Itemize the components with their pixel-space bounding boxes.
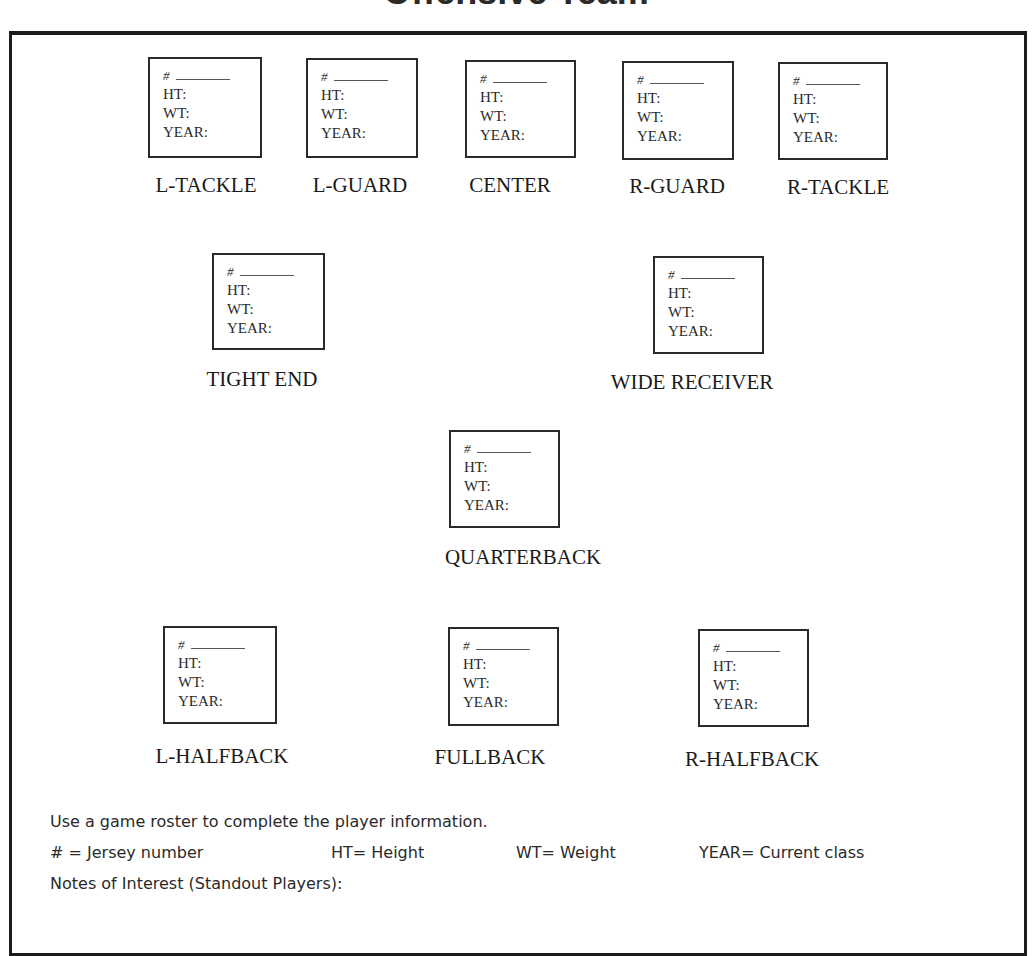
jersey-number-field[interactable]: # <box>637 71 732 89</box>
weight-field[interactable]: WT: <box>793 109 886 128</box>
position-label-wide-receiver: WIDE RECEIVER <box>611 370 774 394</box>
jersey-number-field[interactable]: # <box>713 639 807 657</box>
jersey-number-blank-line[interactable] <box>681 277 735 279</box>
jersey-number-label: # <box>637 72 644 87</box>
legend-item: WT= Weight <box>516 843 616 863</box>
jersey-number-field[interactable]: # <box>793 72 886 90</box>
jersey-number-field[interactable]: # <box>227 263 323 281</box>
player-card-l-halfback[interactable]: #HT:WT:YEAR: <box>163 626 277 724</box>
position-label-l-guard: L-GUARD <box>313 173 408 197</box>
jersey-number-field[interactable]: # <box>480 70 574 88</box>
weight-field[interactable]: WT: <box>480 107 574 126</box>
year-field[interactable]: YEAR: <box>713 695 807 714</box>
height-field[interactable]: HT: <box>463 655 557 674</box>
weight-field[interactable]: WT: <box>668 303 762 322</box>
jersey-number-label: # <box>713 640 720 655</box>
jersey-number-blank-line[interactable] <box>476 648 530 650</box>
jersey-number-label: # <box>163 68 170 83</box>
year-field[interactable]: YEAR: <box>480 126 574 145</box>
legend-item: # = Jersey number <box>50 843 203 863</box>
legend-item: YEAR= Current class <box>699 843 864 863</box>
position-label-quarterback: QUARTERBACK <box>445 545 601 569</box>
jersey-number-blank-line[interactable] <box>650 82 704 84</box>
page-title: Offensive Team <box>0 0 1032 10</box>
jersey-number-label: # <box>480 71 487 86</box>
position-label-r-halfback: R-HALFBACK <box>685 747 819 771</box>
player-card-r-tackle[interactable]: #HT:WT:YEAR: <box>778 62 888 160</box>
jersey-number-blank-line[interactable] <box>477 451 531 453</box>
jersey-number-field[interactable]: # <box>178 636 275 654</box>
position-label-l-tackle: L-TACKLE <box>156 173 257 197</box>
year-field[interactable]: YEAR: <box>668 322 762 341</box>
jersey-number-blank-line[interactable] <box>726 650 780 652</box>
height-field[interactable]: HT: <box>321 86 416 105</box>
weight-field[interactable]: WT: <box>713 676 807 695</box>
player-card-r-guard[interactable]: #HT:WT:YEAR: <box>622 61 734 160</box>
jersey-number-blank-line[interactable] <box>334 79 388 81</box>
weight-field[interactable]: WT: <box>163 104 260 123</box>
jersey-number-blank-line[interactable] <box>240 274 294 276</box>
jersey-number-field[interactable]: # <box>463 637 557 655</box>
weight-field[interactable]: WT: <box>464 477 558 496</box>
weight-field[interactable]: WT: <box>321 105 416 124</box>
weight-field[interactable]: WT: <box>227 300 323 319</box>
legend-item: HT= Height <box>331 843 424 863</box>
jersey-number-label: # <box>178 637 185 652</box>
jersey-number-field[interactable]: # <box>321 68 416 86</box>
height-field[interactable]: HT: <box>713 657 807 676</box>
jersey-number-label: # <box>321 69 328 84</box>
jersey-number-label: # <box>463 638 470 653</box>
player-card-wide-receiver[interactable]: #HT:WT:YEAR: <box>653 256 764 354</box>
jersey-number-blank-line[interactable] <box>493 81 547 83</box>
height-field[interactable]: HT: <box>668 284 762 303</box>
jersey-number-label: # <box>668 267 675 282</box>
jersey-number-field[interactable]: # <box>464 440 558 458</box>
height-field[interactable]: HT: <box>793 90 886 109</box>
player-card-fullback[interactable]: #HT:WT:YEAR: <box>448 627 559 726</box>
height-field[interactable]: HT: <box>464 458 558 477</box>
height-field[interactable]: HT: <box>637 89 732 108</box>
player-card-quarterback[interactable]: #HT:WT:YEAR: <box>449 430 560 528</box>
year-field[interactable]: YEAR: <box>227 319 323 338</box>
weight-field[interactable]: WT: <box>463 674 557 693</box>
jersey-number-field[interactable]: # <box>163 67 260 85</box>
jersey-number-label: # <box>464 441 471 456</box>
height-field[interactable]: HT: <box>178 654 275 673</box>
height-field[interactable]: HT: <box>480 88 574 107</box>
year-field[interactable]: YEAR: <box>178 692 275 711</box>
player-card-l-tackle[interactable]: #HT:WT:YEAR: <box>148 57 262 158</box>
position-label-center: CENTER <box>469 173 551 197</box>
year-field[interactable]: YEAR: <box>463 693 557 712</box>
weight-field[interactable]: WT: <box>178 673 275 692</box>
notes-label: Notes of Interest (Standout Players): <box>50 874 342 894</box>
player-card-l-guard[interactable]: #HT:WT:YEAR: <box>306 58 418 158</box>
instructions-text: Use a game roster to complete the player… <box>50 812 488 832</box>
weight-field[interactable]: WT: <box>637 108 732 127</box>
position-label-tight-end: TIGHT END <box>206 367 317 391</box>
height-field[interactable]: HT: <box>163 85 260 104</box>
position-label-r-guard: R-GUARD <box>629 174 725 198</box>
player-card-tight-end[interactable]: #HT:WT:YEAR: <box>212 253 325 350</box>
player-card-center[interactable]: #HT:WT:YEAR: <box>465 60 576 158</box>
position-label-fullback: FULLBACK <box>435 745 546 769</box>
jersey-number-blank-line[interactable] <box>806 83 860 85</box>
year-field[interactable]: YEAR: <box>321 124 416 143</box>
position-label-r-tackle: R-TACKLE <box>787 175 889 199</box>
year-field[interactable]: YEAR: <box>793 128 886 147</box>
year-field[interactable]: YEAR: <box>464 496 558 515</box>
year-field[interactable]: YEAR: <box>637 127 732 146</box>
jersey-number-blank-line[interactable] <box>176 78 230 80</box>
height-field[interactable]: HT: <box>227 281 323 300</box>
position-label-l-halfback: L-HALFBACK <box>155 744 288 768</box>
jersey-number-label: # <box>793 73 800 88</box>
player-card-r-halfback[interactable]: #HT:WT:YEAR: <box>698 629 809 727</box>
jersey-number-blank-line[interactable] <box>191 647 245 649</box>
jersey-number-label: # <box>227 264 234 279</box>
jersey-number-field[interactable]: # <box>668 266 762 284</box>
year-field[interactable]: YEAR: <box>163 123 260 142</box>
